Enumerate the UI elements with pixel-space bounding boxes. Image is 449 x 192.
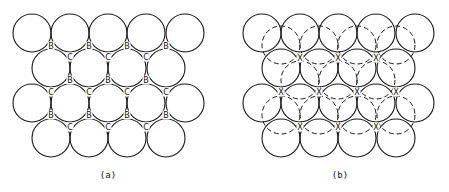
site-label-c: C bbox=[105, 53, 111, 62]
site-label-x: X bbox=[335, 54, 341, 63]
close-packed-layers-figure: BBBBCCCBBBCCCCBBBBCCC XXXXXXXXXX (a) (b) bbox=[0, 0, 449, 192]
site-label-c: C bbox=[163, 88, 169, 97]
atom-circle bbox=[89, 14, 127, 52]
atom-circle bbox=[262, 119, 300, 157]
site-label-b: B bbox=[163, 111, 169, 120]
atom-circle bbox=[89, 84, 127, 122]
site-label-b: B bbox=[163, 42, 169, 51]
site-label-b: B bbox=[143, 76, 149, 85]
site-label-x: X bbox=[393, 88, 399, 97]
atom-circle bbox=[147, 49, 185, 87]
atom-circle bbox=[166, 14, 204, 52]
atom-circle bbox=[51, 14, 89, 52]
site-label-b: B bbox=[124, 42, 130, 51]
panel-a: BBBBCCCBBBCCCCBBBBCCC bbox=[13, 14, 204, 157]
site-label-x: X bbox=[373, 54, 379, 63]
site-label-c: C bbox=[67, 123, 73, 132]
atom-circle bbox=[108, 119, 146, 157]
site-label-x: X bbox=[278, 88, 284, 97]
site-label-x: X bbox=[354, 88, 360, 97]
atom-circle bbox=[70, 119, 108, 157]
atom-circle bbox=[32, 49, 70, 87]
atom-circle bbox=[166, 84, 204, 122]
site-label-b: B bbox=[124, 111, 130, 120]
atom-circle bbox=[300, 119, 338, 157]
atom-circle bbox=[127, 14, 165, 52]
atom-circle bbox=[377, 49, 415, 87]
site-label-x: X bbox=[297, 54, 303, 63]
atom-circle bbox=[70, 49, 108, 87]
site-label-b: B bbox=[48, 111, 54, 120]
site-label-c: C bbox=[105, 123, 111, 132]
site-label-b: B bbox=[86, 111, 92, 120]
atom-circle bbox=[147, 119, 185, 157]
site-label-x: X bbox=[373, 123, 379, 132]
site-label-x: X bbox=[335, 123, 341, 132]
atom-circle bbox=[51, 84, 89, 122]
site-label-b: B bbox=[67, 76, 73, 85]
site-label-c: C bbox=[48, 88, 54, 97]
site-label-b: B bbox=[105, 76, 111, 85]
panel-b: XXXXXXXXXX bbox=[243, 14, 434, 157]
atom-circle bbox=[13, 84, 51, 122]
atom-circle bbox=[377, 119, 415, 157]
site-label-b: B bbox=[48, 42, 54, 51]
site-label-c: C bbox=[67, 53, 73, 62]
atom-circle bbox=[32, 119, 70, 157]
atom-circle bbox=[338, 119, 376, 157]
site-label-c: C bbox=[143, 123, 149, 132]
site-label-c: C bbox=[86, 88, 92, 97]
site-label-c: C bbox=[124, 88, 130, 97]
site-label-x: X bbox=[297, 123, 303, 132]
atom-circle bbox=[127, 84, 165, 122]
caption-a: (a) bbox=[100, 170, 116, 180]
atom-circle bbox=[13, 14, 51, 52]
site-label-b: B bbox=[86, 42, 92, 51]
site-label-c: C bbox=[143, 53, 149, 62]
atom-circle bbox=[108, 49, 146, 87]
caption-b: (b) bbox=[332, 170, 348, 180]
site-label-x: X bbox=[316, 88, 322, 97]
